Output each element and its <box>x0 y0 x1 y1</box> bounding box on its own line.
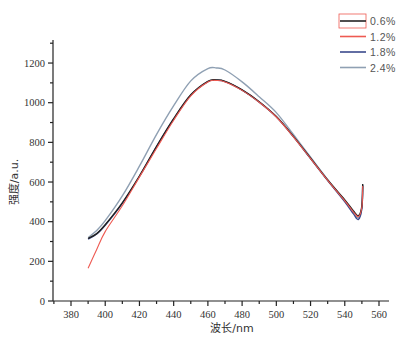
legend-label: 1.8% <box>370 46 396 58</box>
plot-area <box>88 67 363 268</box>
x-tick-label: 500 <box>268 309 284 320</box>
y-tick-label: 800 <box>29 137 45 148</box>
x-tick-label: 540 <box>337 309 353 320</box>
tick-labels: 3804004204404604805005205405600200400600… <box>24 58 387 320</box>
legend: 0.6%1.2%1.8%2.4% <box>339 14 396 74</box>
series-line-2-4pct <box>88 67 363 237</box>
y-axis-title: 强度/a.u. <box>7 159 21 205</box>
series-line-0-6pct <box>88 80 363 239</box>
x-tick-label: 440 <box>166 309 182 320</box>
x-tick-label: 480 <box>234 309 250 320</box>
x-axis-title: 波长/nm <box>210 322 253 335</box>
legend-label: 1.2% <box>370 31 396 43</box>
x-tick-label: 560 <box>371 309 387 320</box>
series-line-1-2pct <box>88 80 363 268</box>
legend-label: 0.6% <box>370 15 396 27</box>
y-tick-label: 0 <box>40 296 45 307</box>
x-tick-label: 460 <box>200 309 216 320</box>
legend-label: 2.4% <box>370 62 396 74</box>
x-tick-label: 420 <box>132 309 148 320</box>
x-tick-label: 380 <box>63 309 79 320</box>
y-tick-label: 600 <box>29 177 45 188</box>
x-tick-label: 520 <box>303 309 319 320</box>
y-tick-label: 200 <box>29 256 45 267</box>
series-line-1-8pct <box>88 80 363 239</box>
y-tick-label: 1200 <box>24 58 45 69</box>
spectrum-chart: 3804004204404604805005205405600200400600… <box>0 0 407 351</box>
y-tick-label: 400 <box>29 216 45 227</box>
x-tick-label: 400 <box>97 309 113 320</box>
y-tick-label: 1000 <box>24 97 45 108</box>
